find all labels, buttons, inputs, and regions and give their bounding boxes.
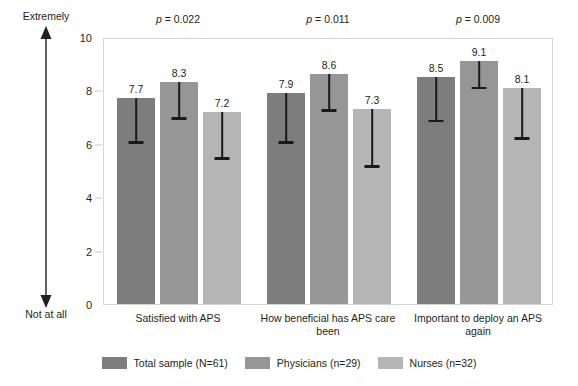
legend-label: Total sample (N=61) bbox=[134, 357, 228, 369]
error-bar-line bbox=[435, 77, 437, 121]
legend-swatch bbox=[102, 357, 127, 369]
y-axis-tick-label: 0 bbox=[86, 299, 92, 311]
legend-item: Nurses (n=32) bbox=[378, 357, 477, 369]
y-axis-tick-label: 10 bbox=[80, 32, 92, 44]
bar: 7.7 bbox=[117, 98, 155, 304]
bar-value-label: 7.3 bbox=[365, 94, 380, 106]
error-bar-cap bbox=[322, 109, 337, 111]
legend-item: Physicians (n=29) bbox=[245, 357, 361, 369]
legend-swatch bbox=[245, 357, 270, 369]
bar: 8.3 bbox=[160, 82, 198, 304]
bar-value-label: 8.3 bbox=[172, 67, 187, 79]
bar: 7.9 bbox=[267, 93, 305, 304]
p-value-label: p = 0.011 bbox=[306, 13, 349, 25]
bar: 8.5 bbox=[417, 77, 455, 304]
error-bar-line bbox=[178, 82, 180, 118]
category-label: How beneficial has APS care been bbox=[253, 312, 403, 338]
error-bar-line bbox=[371, 109, 373, 166]
bar: 9.1 bbox=[460, 61, 498, 304]
category-label: Important to deploy an APS again bbox=[403, 312, 553, 338]
figure-root: Extremely Not at all 0246810 p = 0.022p … bbox=[0, 0, 578, 386]
category-label: Satisfied with APS bbox=[103, 312, 253, 325]
error-bar-cap bbox=[365, 165, 380, 167]
legend: Total sample (N=61)Physicians (n=29)Nurs… bbox=[0, 352, 578, 374]
error-bar-cap bbox=[515, 137, 530, 139]
error-bar-line bbox=[285, 93, 287, 142]
y-axis-tick-mark bbox=[95, 144, 102, 145]
p-value-label: p = 0.022 bbox=[156, 13, 200, 25]
bar-value-label: 9.1 bbox=[472, 46, 487, 58]
y-axis-tick-label: 8 bbox=[86, 85, 92, 97]
error-bar-line bbox=[221, 112, 223, 159]
bar: 7.2 bbox=[203, 112, 241, 304]
bar-value-label: 7.9 bbox=[279, 78, 294, 90]
error-bar-cap bbox=[472, 87, 487, 89]
bar: 8.6 bbox=[310, 74, 348, 304]
error-bar-cap bbox=[172, 117, 187, 119]
error-bar-line bbox=[135, 98, 137, 142]
bar-value-label: 7.7 bbox=[129, 83, 144, 95]
y-axis-tick-label: 4 bbox=[86, 192, 92, 204]
y-axis-tick-mark bbox=[95, 91, 102, 92]
y-axis-tick-mark bbox=[95, 198, 102, 199]
bar: 7.3 bbox=[353, 109, 391, 304]
legend-label: Nurses (n=32) bbox=[410, 357, 477, 369]
y-axis-tick-mark bbox=[95, 251, 102, 252]
error-bar-cap bbox=[129, 141, 144, 143]
error-bar-cap bbox=[279, 141, 294, 143]
bar-value-label: 8.6 bbox=[322, 59, 337, 71]
y-axis-tick-label: 6 bbox=[86, 139, 92, 151]
plot-area: 7.78.37.27.98.67.38.59.18.1 bbox=[103, 38, 553, 305]
error-bar-line bbox=[521, 88, 523, 139]
scale-top-label: Extremely bbox=[0, 10, 92, 22]
legend-item: Total sample (N=61) bbox=[102, 357, 228, 369]
error-bar-cap bbox=[215, 157, 230, 159]
legend-swatch bbox=[378, 357, 403, 369]
y-axis-tick-label: 2 bbox=[86, 246, 92, 258]
bar-value-label: 7.2 bbox=[215, 97, 230, 109]
error-bar-line bbox=[328, 74, 330, 110]
error-bar-cap bbox=[429, 120, 444, 122]
legend-label: Physicians (n=29) bbox=[277, 357, 361, 369]
bar-value-label: 8.1 bbox=[515, 73, 530, 85]
y-axis: 0246810 bbox=[60, 30, 102, 313]
bar: 8.1 bbox=[503, 88, 541, 304]
p-value-label: p = 0.009 bbox=[456, 13, 500, 25]
bars-layer: 7.78.37.27.98.67.38.59.18.1 bbox=[104, 39, 552, 304]
bar-value-label: 8.5 bbox=[429, 62, 444, 74]
error-bar-line bbox=[478, 61, 480, 88]
